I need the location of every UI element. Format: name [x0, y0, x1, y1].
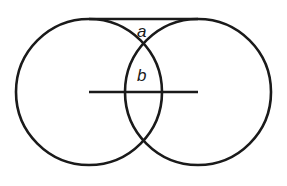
label-a: a [137, 22, 146, 41]
overlapping-circles-diagram: a b [0, 0, 287, 186]
label-b: b [137, 66, 146, 85]
